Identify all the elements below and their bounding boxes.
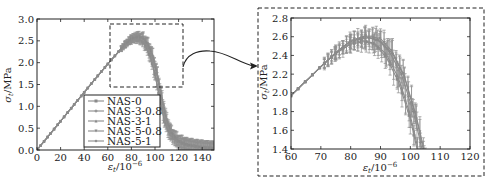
y-tick-label: 1.8 <box>272 106 288 117</box>
y-tick-label: 2.0 <box>272 87 288 98</box>
y-tick-label: 2.2 <box>272 69 288 80</box>
y-tick-label: 2.0 <box>18 57 34 68</box>
legend: NAS-0NAS-3-0.8NAS-3-1NAS-5-0.8NAS-5-1 <box>84 95 162 147</box>
figure: 020406080100120140 0.00.51.01.52.02.53.0… <box>0 0 488 184</box>
y-tick-label: 3.0 <box>18 14 34 25</box>
x-tick-label: 120 <box>169 152 188 163</box>
zoom-x-axis-label: εt/10−6 <box>363 161 398 175</box>
zoom-y-axis-label: σt/MPa <box>258 64 271 100</box>
zoom-y-ticks: 1.41.61.82.02.22.42.62.8 <box>272 13 470 155</box>
x-tick-label: 110 <box>431 151 450 162</box>
x-tick-label: 70 <box>314 151 327 162</box>
x-tick-label: 100 <box>401 151 420 162</box>
y-tick-label: 1.4 <box>272 144 288 155</box>
y-tick-label: 1.0 <box>18 101 34 112</box>
arrowhead-icon <box>250 63 258 70</box>
x-tick-label: 120 <box>460 151 479 162</box>
y-tick-label: 1.6 <box>272 125 288 136</box>
main-x-axis-label: εt/10−6 <box>108 160 143 174</box>
x-tick-label: 0 <box>34 152 40 163</box>
x-tick-label: 100 <box>145 152 164 163</box>
y-tick-label: 2.4 <box>272 50 288 61</box>
y-tick-label: 0.0 <box>18 145 34 156</box>
y-tick-label: 2.8 <box>272 13 288 24</box>
main-chart: 020406080100120140 0.00.51.01.52.02.53.0… <box>2 14 216 175</box>
y-tick-label: 2.6 <box>272 31 288 42</box>
x-tick-label: 140 <box>193 152 212 163</box>
connector-curve <box>183 51 254 67</box>
y-tick-label: 2.5 <box>18 35 34 46</box>
connector-arrow <box>183 51 258 70</box>
zoom-chart: 60708090100110120 1.41.61.82.02.22.42.62… <box>258 8 484 184</box>
x-tick-label: 80 <box>344 151 357 162</box>
legend-label: NAS-5-1 <box>107 135 152 147</box>
x-tick-label: 40 <box>78 152 91 163</box>
y-tick-label: 0.5 <box>18 123 34 134</box>
x-tick-label: 90 <box>374 151 387 162</box>
main-y-axis-label: σt/MPa <box>2 67 15 103</box>
x-tick-label: 20 <box>54 152 67 163</box>
y-tick-label: 1.5 <box>18 79 34 90</box>
